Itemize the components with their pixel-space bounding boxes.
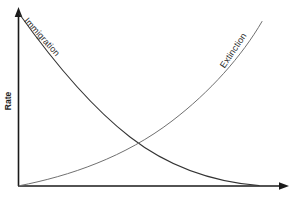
x-axis-arrowhead-icon — [279, 182, 289, 190]
island-biogeography-equilibrium-figure: Immigration Extinction Rate — [0, 0, 293, 200]
immigration-curve — [19, 14, 259, 186]
y-axis-arrowhead-icon — [15, 7, 23, 17]
plot-area — [0, 0, 293, 200]
y-axis-label: Rate — [3, 84, 13, 118]
